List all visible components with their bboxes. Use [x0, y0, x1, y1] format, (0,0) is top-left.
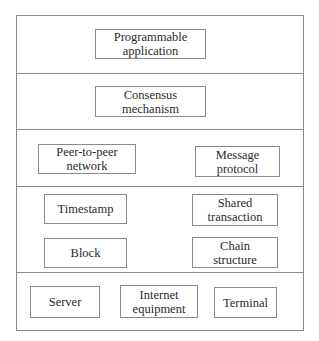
node-label: Terminal [223, 296, 268, 310]
node-message-protocol: Message protocol [195, 146, 280, 177]
node-label: Block [71, 246, 101, 260]
node-consensus-mechanism: Consensus mechanism [95, 86, 206, 117]
node-label: Consensus mechanism [122, 88, 179, 116]
layer-divider-3 [16, 186, 304, 187]
node-label: Message protocol [216, 148, 260, 176]
node-timestamp: Timestamp [44, 194, 127, 224]
node-label: Server [49, 295, 82, 309]
node-label: Timestamp [58, 202, 114, 216]
node-terminal: Terminal [214, 287, 277, 318]
node-server: Server [30, 286, 100, 318]
node-block: Block [44, 238, 127, 268]
node-label: Peer-to-peer network [56, 145, 118, 173]
node-peer-to-peer-network: Peer-to-peer network [38, 144, 136, 174]
node-label: Programmable application [114, 30, 188, 58]
node-shared-transaction: Shared transaction [192, 194, 278, 226]
node-programmable-application: Programmable application [95, 29, 206, 59]
layer-divider-1 [16, 73, 304, 74]
layer-divider-2 [16, 129, 304, 130]
node-internet-equipment: Internet equipment [120, 285, 198, 318]
node-label: Internet equipment [133, 288, 186, 316]
node-label: Shared transaction [208, 196, 263, 224]
node-chain-structure: Chain structure [192, 237, 278, 268]
node-label: Chain structure [213, 239, 257, 267]
layer-divider-4 [16, 272, 304, 273]
